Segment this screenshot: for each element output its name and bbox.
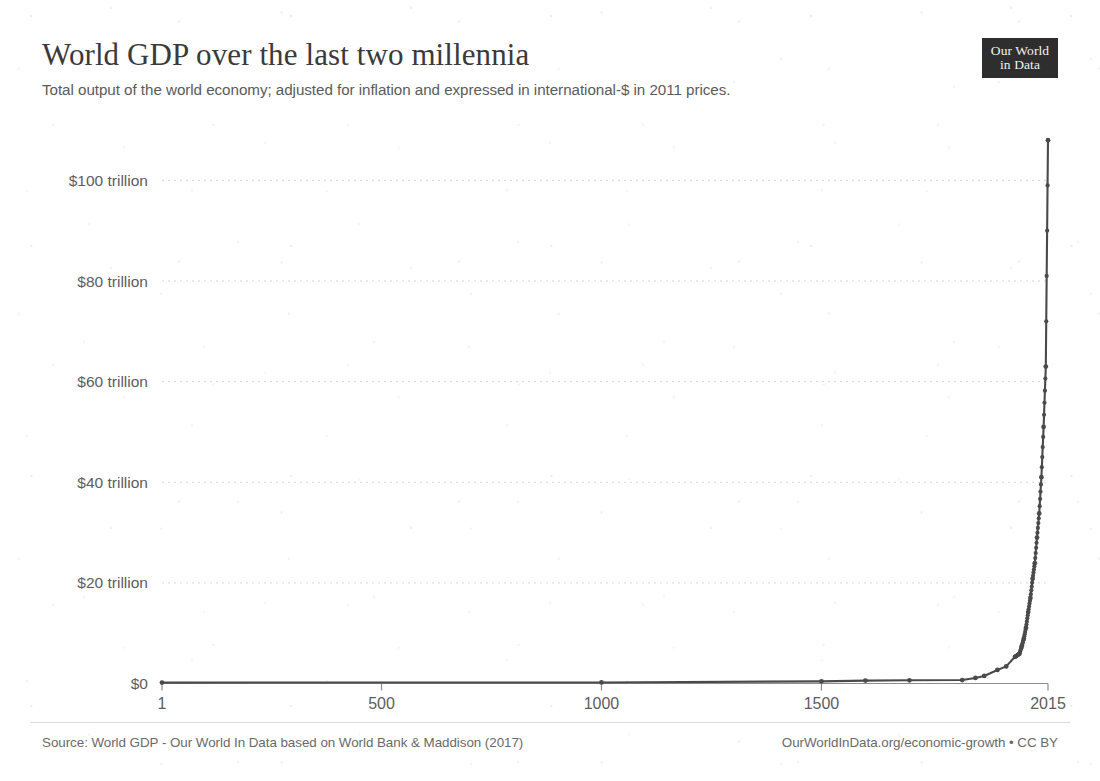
y-axis-tick-label: $0 <box>131 675 149 692</box>
data-point-marker[interactable] <box>1023 628 1027 632</box>
source-note: Source: World GDP - Our World In Data ba… <box>42 735 523 750</box>
data-point-marker[interactable] <box>1029 588 1033 592</box>
data-point-marker[interactable] <box>1038 497 1042 501</box>
data-point-marker[interactable] <box>1036 521 1040 525</box>
data-point-marker[interactable] <box>1039 475 1044 480</box>
data-point-marker[interactable] <box>819 679 824 684</box>
data-point-marker[interactable] <box>1042 401 1046 405</box>
data-point-marker[interactable] <box>1034 551 1038 555</box>
x-axis-tick-label: 500 <box>368 695 395 712</box>
data-point-marker[interactable] <box>1044 319 1048 323</box>
data-point-marker[interactable] <box>160 680 165 685</box>
x-axis-tick-label: 2015 <box>1030 695 1066 712</box>
chart-footer: Source: World GDP - Our World In Data ba… <box>42 735 1058 750</box>
data-point-marker[interactable] <box>1038 490 1042 494</box>
data-point-marker[interactable] <box>982 674 987 679</box>
data-point-marker[interactable] <box>1034 541 1038 545</box>
y-axis-tick-label: $100 trillion <box>69 172 148 189</box>
data-point-marker[interactable] <box>1035 531 1039 535</box>
data-point-marker[interactable] <box>1021 638 1025 642</box>
source-link[interactable]: OurWorldInData.org/economic-growth • CC … <box>782 735 1058 750</box>
data-point-marker[interactable] <box>1045 274 1049 278</box>
data-point-marker[interactable] <box>1026 613 1030 617</box>
data-point-marker[interactable] <box>1037 511 1042 516</box>
data-point-marker[interactable] <box>1033 556 1037 560</box>
data-point-marker[interactable] <box>863 678 868 683</box>
data-point-marker[interactable] <box>1038 504 1042 508</box>
data-point-marker[interactable] <box>1032 564 1036 568</box>
data-point-marker[interactable] <box>1045 183 1049 187</box>
data-point-marker[interactable] <box>1043 364 1048 369</box>
data-point-marker[interactable] <box>973 676 978 681</box>
y-axis-labels: $0$20 trillion$40 trillion$60 trillion$8… <box>69 172 149 692</box>
chart-plot-area[interactable]: $0$20 trillion$40 trillion$60 trillion$8… <box>0 0 1100 781</box>
gdp-series-markers[interactable] <box>160 138 1051 685</box>
data-point-marker[interactable] <box>1035 535 1040 540</box>
x-axis-tick-label: 1000 <box>584 695 620 712</box>
data-point-marker[interactable] <box>1028 599 1032 603</box>
data-point-marker[interactable] <box>1030 584 1034 588</box>
data-point-marker[interactable] <box>1030 581 1034 585</box>
data-point-marker[interactable] <box>1039 482 1043 486</box>
footer-divider <box>30 722 1070 723</box>
x-axis-tick-label: 1500 <box>804 695 840 712</box>
y-axis-tick-label: $20 trillion <box>77 574 148 591</box>
data-point-marker[interactable] <box>1034 546 1038 550</box>
data-point-marker[interactable] <box>1040 465 1044 469</box>
data-point-marker[interactable] <box>1040 455 1044 459</box>
data-point-marker[interactable] <box>1029 592 1033 596</box>
y-axis-tick-label: $80 trillion <box>77 273 148 290</box>
data-point-marker[interactable] <box>1041 445 1045 449</box>
gridlines <box>162 180 1048 583</box>
x-axis-tick-labels: 1500100015002015 <box>158 695 1066 712</box>
y-axis-tick-label: $60 trillion <box>77 373 148 390</box>
data-point-marker[interactable] <box>1043 377 1047 381</box>
data-point-marker[interactable] <box>960 678 965 683</box>
data-point-marker[interactable] <box>1046 138 1051 143</box>
data-point-marker[interactable] <box>1041 435 1045 439</box>
data-point-marker[interactable] <box>995 668 1000 673</box>
data-point-marker[interactable] <box>1036 526 1040 530</box>
data-point-marker[interactable] <box>907 678 912 683</box>
data-point-marker[interactable] <box>1042 413 1046 417</box>
y-axis-tick-label: $40 trillion <box>77 474 148 491</box>
data-point-marker[interactable] <box>1041 425 1046 430</box>
data-point-marker[interactable] <box>1037 516 1041 520</box>
data-point-marker[interactable] <box>1043 389 1047 393</box>
gdp-series-line[interactable] <box>162 140 1048 682</box>
data-point-marker[interactable] <box>1045 229 1049 233</box>
x-axis: 1500100015002015 <box>158 684 1066 712</box>
data-point-marker[interactable] <box>1004 664 1009 669</box>
data-point-marker[interactable] <box>599 680 604 685</box>
x-axis-ticks <box>162 684 1048 691</box>
x-axis-tick-label: 1 <box>158 695 167 712</box>
